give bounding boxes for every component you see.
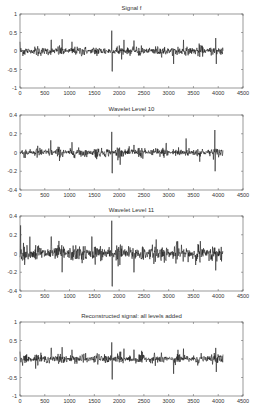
y-tick-label: 0 [14,48,17,54]
axes-3: 050010001500200025003000350040004500-1-0… [8,319,250,404]
axes-0: 050010001500200025003000350040004500-1-0… [8,11,250,96]
x-tick-label: 0 [18,398,21,404]
y-tick-label: 0 [14,150,17,156]
y-tick-label: 0.4 [9,213,17,219]
y-tick-label: 0 [14,251,17,257]
x-tick-label: 4000 [212,90,224,96]
x-tick-label: 3500 [187,192,199,198]
axes-2: 050010001500200025003000350040004500-0.4… [8,213,250,299]
x-tick-label: 3500 [187,398,199,404]
y-tick-label: -1 [12,85,17,91]
x-tick-label: 500 [40,293,49,299]
x-tick-label: 0 [18,192,21,198]
y-tick-label: -0.4 [8,187,17,193]
x-tick-label: 1500 [88,398,100,404]
x-tick-label: 4500 [237,90,249,96]
x-tick-label: 500 [40,398,49,404]
x-tick-label: 0 [18,293,21,299]
x-tick-label: 500 [40,192,49,198]
signal-line [20,31,223,72]
x-tick-label: 2000 [113,398,125,404]
signal-line [20,221,223,287]
x-tick-label: 2000 [113,192,125,198]
x-tick-label: 1000 [63,293,75,299]
x-tick-label: 1500 [88,293,100,299]
x-tick-label: 4500 [237,398,249,404]
x-tick-label: 2500 [138,90,150,96]
y-tick-label: 0.2 [9,232,17,238]
x-tick-label: 4000 [212,293,224,299]
x-tick-label: 4500 [237,293,249,299]
y-tick-label: 0.2 [9,131,17,137]
axes-1: 050010001500200025003000350040004500-0.4… [8,112,250,198]
y-tick-label: 0.5 [9,30,17,36]
y-tick-label: 0.5 [9,338,17,344]
y-tick-label: -0.5 [8,67,17,73]
x-tick-label: 500 [40,90,49,96]
x-tick-label: 1000 [63,398,75,404]
x-tick-label: 2500 [138,293,150,299]
x-tick-label: 4000 [212,398,224,404]
x-tick-label: 1500 [88,90,100,96]
x-tick-label: 1000 [63,192,75,198]
x-tick-label: 3000 [163,293,175,299]
x-tick-label: 3000 [163,90,175,96]
chart-canvas: 050010001500200025003000350040004500-1-0… [0,0,258,418]
x-tick-label: 0 [18,90,21,96]
y-tick-label: 1 [14,319,17,325]
y-tick-label: -0.5 [8,375,17,381]
y-tick-label: 0 [14,356,17,362]
signal-line [20,130,223,173]
x-tick-label: 4000 [212,192,224,198]
x-tick-label: 2000 [113,90,125,96]
signal-line [20,342,223,379]
x-tick-label: 1000 [63,90,75,96]
y-tick-label: -0.2 [8,269,17,275]
y-tick-label: -0.4 [8,288,17,294]
y-tick-label: 0.4 [9,112,17,118]
x-tick-label: 3000 [163,398,175,404]
y-tick-label: -0.2 [8,168,17,174]
x-tick-label: 2000 [113,293,125,299]
x-tick-label: 1500 [88,192,100,198]
x-tick-label: 2500 [138,398,150,404]
y-tick-label: 1 [14,11,17,17]
x-tick-label: 3500 [187,90,199,96]
x-tick-label: 3000 [163,192,175,198]
x-tick-label: 2500 [138,192,150,198]
y-tick-label: -1 [12,393,17,399]
x-tick-label: 4500 [237,192,249,198]
x-tick-label: 3500 [187,293,199,299]
